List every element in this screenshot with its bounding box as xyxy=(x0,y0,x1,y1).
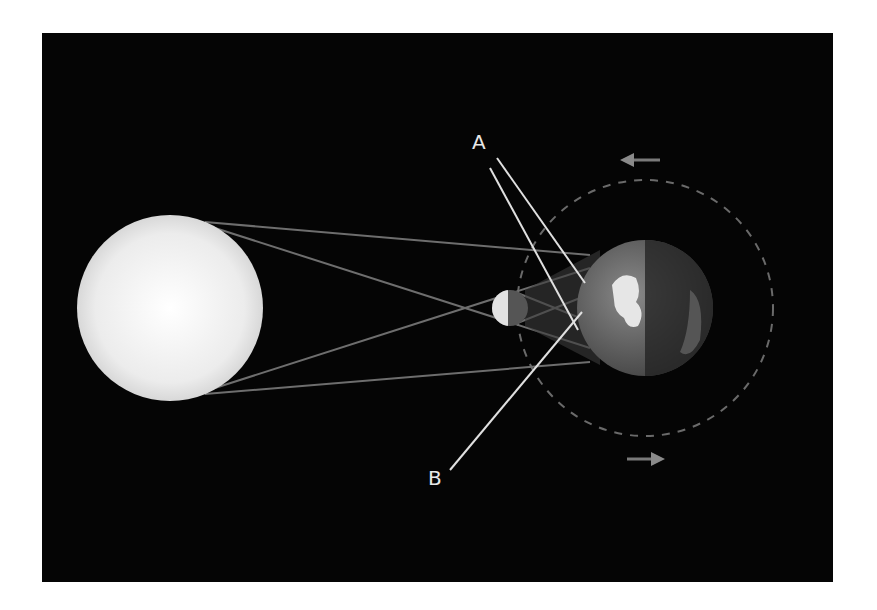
eclipse-diagram xyxy=(0,0,877,610)
moon xyxy=(492,290,528,326)
arrow-left-icon xyxy=(620,153,660,167)
label-b: B xyxy=(428,468,442,488)
callout-a-line-1 xyxy=(497,158,585,283)
arrow-right-icon xyxy=(627,452,665,466)
callout-b-line xyxy=(450,312,582,470)
label-a: A xyxy=(472,132,486,152)
sun xyxy=(77,215,263,401)
